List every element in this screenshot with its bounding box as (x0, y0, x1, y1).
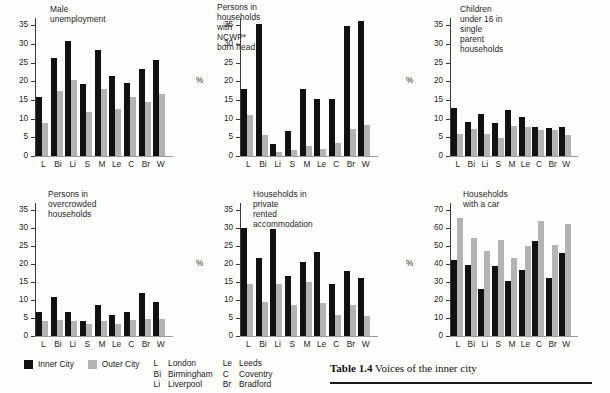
caption-text: Voices of the inner city (375, 362, 477, 374)
bar-outer-city-Br (552, 130, 558, 156)
x-tick-label-W: W (559, 159, 573, 169)
y-tick (236, 137, 240, 138)
legend-key-inner-city: Inner City (24, 358, 74, 369)
bar-outer-city-W (159, 94, 165, 156)
y-tick (31, 81, 35, 82)
bar-group-Li (270, 229, 285, 336)
bar-outer-city-W (364, 316, 370, 336)
bar-group-S (492, 240, 506, 336)
y-tick (236, 100, 240, 101)
bar-group-Br (139, 69, 154, 156)
bar-group-W (358, 278, 373, 336)
y-tick (446, 119, 450, 120)
y-tick-label: 50 (421, 242, 443, 250)
bar-outer-city-C (335, 143, 341, 156)
bar-group-Bi (51, 297, 66, 336)
y-tick-label: 20 (6, 77, 28, 85)
y-tick (31, 25, 35, 26)
bar-outer-city-Bi (262, 135, 268, 156)
legend-label-inner-city: Inner City (38, 359, 74, 369)
y-tick (236, 25, 240, 26)
abbrev-name: Birmingham (168, 369, 213, 380)
x-tick-label-M: M (300, 339, 315, 349)
x-tick-label-Br: Br (344, 339, 359, 349)
abbrev-names-left: London Birmingham Liverpool (168, 358, 213, 390)
y-tick-label: 30 (6, 40, 28, 48)
x-tick-label-C: C (329, 159, 344, 169)
x-axis-labels: LBiLiSMLeCBrW (241, 159, 373, 169)
y-tick-label: 25 (211, 242, 233, 250)
bar-group-W (358, 21, 373, 156)
x-tick-label-S: S (285, 159, 300, 169)
bar-group-S (492, 123, 506, 156)
y-axis-label: % (406, 260, 413, 268)
y-tick (236, 246, 240, 247)
y-tick-label: 25 (6, 242, 28, 250)
y-tick (446, 63, 450, 64)
bar-outer-city-M (511, 258, 517, 336)
bar-outer-city-Bi (262, 302, 268, 336)
x-tick-label-L: L (36, 339, 51, 349)
y-tick-label: 30 (6, 224, 28, 232)
bar-outer-city-S (498, 138, 504, 156)
y-tick-label: 5 (6, 314, 28, 322)
y-axis-label: % (196, 260, 203, 268)
y-tick (446, 318, 450, 319)
bar-outer-city-Le (115, 324, 121, 336)
y-tick-label: 20 (6, 260, 28, 268)
caption-rule (330, 382, 592, 384)
y-axis-label: % (196, 77, 203, 85)
bar-outer-city-S (86, 112, 92, 156)
y-tick-label: 5 (421, 133, 443, 141)
x-tick-label-Le: Le (109, 159, 124, 169)
abbrev-names-right: Leeds Coventry Bradford (239, 358, 273, 390)
y-tick (31, 44, 35, 45)
bar-group-L (241, 228, 256, 336)
y-tick-label: 5 (211, 133, 233, 141)
plot-area: 010203040506070%LBiLiSMLeCBrW (450, 203, 572, 336)
x-tick-label-W: W (153, 339, 168, 349)
x-tick-label-M: M (95, 339, 110, 349)
x-tick-label-L: L (36, 159, 51, 169)
bar-outer-city-Li (484, 134, 490, 156)
x-tick-label-S: S (285, 339, 300, 349)
bar-outer-city-Br (350, 129, 356, 156)
x-axis-labels: LBiLiSMLeCBrW (36, 159, 168, 169)
y-tick-label: 20 (211, 77, 233, 85)
bar-group-M (505, 110, 519, 156)
bar-outer-city-S (291, 150, 297, 156)
bar-outer-city-W (565, 135, 571, 156)
bar-outer-city-Le (525, 246, 531, 336)
y-tick-label: 10 (421, 314, 443, 322)
y-tick (236, 336, 240, 337)
x-tick-label-W: W (153, 159, 168, 169)
bar-group-Li (65, 41, 80, 156)
y-tick (446, 100, 450, 101)
y-tick (446, 300, 450, 301)
bar-outer-city-Br (145, 102, 151, 156)
y-tick (446, 228, 450, 229)
y-tick (236, 318, 240, 319)
x-axis-labels: LBiLiSMLeCBrW (451, 339, 573, 349)
y-tick (446, 44, 450, 45)
bar-group-Le (519, 246, 533, 336)
x-tick-label-Bi: Bi (51, 159, 66, 169)
bar-group-L (451, 218, 465, 336)
y-tick (236, 300, 240, 301)
abbrev-keys-right: Le C Br (223, 358, 232, 390)
bar-group-M (300, 89, 315, 157)
bar-group-Le (109, 315, 124, 336)
bar-outer-city-Li (484, 251, 490, 336)
x-tick-label-Li: Li (270, 339, 285, 349)
x-tick-label-L: L (241, 159, 256, 169)
abbrev-name: Liverpool (168, 379, 213, 390)
x-axis (35, 156, 173, 157)
x-tick-label-C: C (124, 339, 139, 349)
y-tick (236, 63, 240, 64)
bar-group-W (559, 127, 573, 156)
x-tick-label-Br: Br (344, 159, 359, 169)
x-tick-label-Br: Br (546, 159, 560, 169)
y-tick-label: 5 (6, 133, 28, 141)
bar-group-Le (314, 99, 329, 156)
x-tick-label-Le: Le (519, 339, 533, 349)
